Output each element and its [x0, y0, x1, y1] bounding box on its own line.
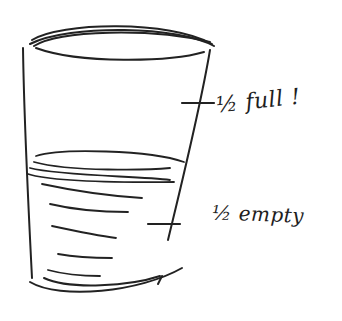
half-empty-label: ½ empty	[212, 200, 305, 227]
glass-drawing	[0, 0, 342, 321]
sketch-canvas: ½ full ! ½ empty	[0, 0, 342, 321]
glass-left-wall	[23, 48, 32, 278]
glass-right-wall	[168, 50, 210, 240]
water-shading	[42, 184, 142, 276]
glass-rim	[30, 26, 214, 60]
water-surface	[28, 151, 184, 182]
